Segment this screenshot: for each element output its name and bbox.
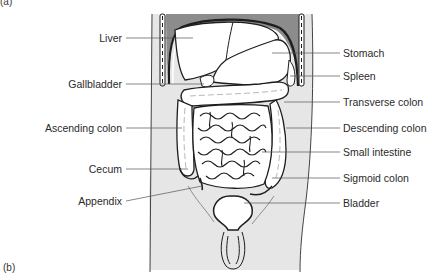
abdominal-anatomy-figure: (a) (b): [0, 0, 434, 277]
label-sigmoid-colon: Sigmoid colon: [343, 172, 409, 184]
label-stomach: Stomach: [343, 47, 384, 59]
label-appendix: Appendix: [78, 195, 122, 207]
gallbladder: [200, 75, 214, 87]
label-descending-colon: Descending colon: [343, 122, 426, 134]
anatomy-illustration: [0, 0, 434, 277]
label-bladder: Bladder: [343, 197, 379, 209]
small-intestine: [193, 105, 272, 189]
label-transverse-colon: Transverse colon: [343, 96, 423, 108]
label-gallbladder: Gallbladder: [68, 78, 122, 90]
label-spleen: Spleen: [343, 70, 376, 82]
label-small-intestine: Small intestine: [343, 146, 411, 158]
label-cecum: Cecum: [89, 163, 122, 175]
label-liver: Liver: [99, 32, 122, 44]
label-ascending-colon: Ascending colon: [45, 122, 122, 134]
